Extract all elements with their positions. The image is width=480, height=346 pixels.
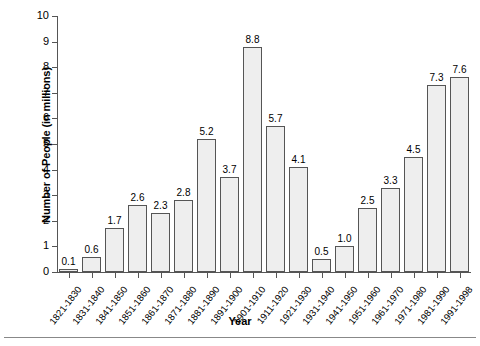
bar-group: 4.5 [404,16,423,272]
y-tick: 5 [52,144,57,145]
x-tick [368,273,369,278]
bar [174,200,193,272]
x-tick [161,273,162,278]
bar-group: 2.6 [128,16,147,272]
y-tick: 4 [52,170,57,171]
y-tick-label: 5 [43,137,49,150]
bar-value-label: 0.6 [85,244,99,255]
bar-value-label: 8.8 [246,34,260,45]
bar-value-label: 0.5 [315,246,329,257]
bar-value-label: 1.0 [338,233,352,244]
bar-value-label: 1.7 [108,215,122,226]
bar-group: 1.7 [105,16,124,272]
x-axis-line [57,272,471,273]
bar [220,177,239,272]
bar-value-label: 5.7 [269,113,283,124]
y-tick-label: 1 [43,239,49,252]
y-tick: 9 [52,42,57,43]
bar [404,157,423,272]
x-tick [115,273,116,278]
bar [266,126,285,272]
bar-value-label: 2.8 [177,187,191,198]
bar-group: 1.0 [335,16,354,272]
bar [450,77,469,272]
bar-group: 0.6 [82,16,101,272]
bar [312,259,331,272]
bar [289,167,308,272]
x-tick [184,273,185,278]
bar [82,257,101,272]
x-tick [391,273,392,278]
bar-value-label: 4.1 [292,154,306,165]
bar-value-label: 2.6 [131,192,145,203]
bar-group: 3.7 [220,16,239,272]
x-tick [138,273,139,278]
bar-value-label: 5.2 [200,126,214,137]
bottom-divider [4,337,476,338]
y-tick: 0 [52,272,57,273]
y-tick-label: 4 [43,163,49,176]
bar [197,139,216,272]
y-tick: 3 [52,195,57,196]
bar-group: 2.3 [151,16,170,272]
bar [128,205,147,272]
y-tick: 7 [52,93,57,94]
y-tick: 6 [52,118,57,119]
y-tick-label: 6 [43,111,49,124]
bar-value-label: 2.5 [361,195,375,206]
bar [358,208,377,272]
y-axis-line [57,16,58,273]
x-tick [253,273,254,278]
bar [59,269,78,272]
y-tick: 10 [52,16,57,17]
plot-area: 109876543210 0.10.61.72.62.32.85.23.78.8… [57,16,471,272]
x-tick [460,273,461,278]
y-tick: 2 [52,221,57,222]
x-tick [299,273,300,278]
y-tick-label: 0 [43,265,49,278]
bar-group: 5.7 [266,16,285,272]
x-tick [414,273,415,278]
bar [427,85,446,272]
x-tick [276,273,277,278]
bar-value-label: 4.5 [407,144,421,155]
x-axis-title: Year [0,315,480,327]
bar-value-label: 3.3 [384,175,398,186]
bar-group: 2.5 [358,16,377,272]
bar-chart: Number of People (in millions) 109876543… [0,0,480,346]
x-tick [437,273,438,278]
bar-value-label: 0.1 [62,256,76,267]
bar-group: 3.3 [381,16,400,272]
y-tick: 8 [52,67,57,68]
x-tick [69,273,70,278]
x-tick [345,273,346,278]
bar-group: 5.2 [197,16,216,272]
bar-group: 7.6 [450,16,469,272]
y-tick-label: 9 [43,35,49,48]
x-tick [207,273,208,278]
bar-group: 7.3 [427,16,446,272]
y-tick-label: 10 [37,9,49,22]
bar-group: 0.5 [312,16,331,272]
bar [335,246,354,272]
bar [105,228,124,272]
bar [151,213,170,272]
bar-value-label: 7.6 [453,64,467,75]
y-tick-label: 3 [43,188,49,201]
bar [381,188,400,272]
bar-group: 0.1 [59,16,78,272]
x-tick [322,273,323,278]
y-tick-label: 8 [43,60,49,73]
y-tick-label: 2 [43,214,49,227]
bar-group: 8.8 [243,16,262,272]
bar-group: 4.1 [289,16,308,272]
y-tick: 1 [52,246,57,247]
x-tick [92,273,93,278]
bar-value-label: 3.7 [223,164,237,175]
bar-group: 2.8 [174,16,193,272]
bar-value-label: 2.3 [154,200,168,211]
y-tick-label: 7 [43,86,49,99]
x-tick [230,273,231,278]
bar-value-label: 7.3 [430,72,444,83]
bar [243,47,262,272]
